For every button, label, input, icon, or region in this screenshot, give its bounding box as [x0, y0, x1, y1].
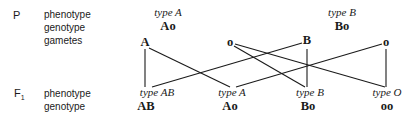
f1-label-letter: F: [14, 87, 21, 99]
gamete-A: A: [140, 35, 149, 50]
offspring-Ao-phenotype: type A: [218, 86, 246, 98]
offspring-Ao-genotype: Ao: [222, 99, 237, 114]
offspring-AB-phenotype: type AB: [140, 86, 174, 98]
p-generation-label: P: [13, 9, 20, 21]
f1-row-label-phenotype: phenotype: [44, 88, 91, 99]
gamete-B: B: [303, 33, 311, 48]
gamete-o-parent2: o: [383, 35, 389, 50]
parent1-phenotype: type A: [154, 6, 182, 18]
gamete-o-parent1: o: [227, 35, 233, 50]
offspring-AB-genotype: AB: [137, 99, 154, 114]
row-label-phenotype: phenotype: [44, 9, 91, 20]
parent2-phenotype: type B: [328, 6, 356, 18]
row-label-gametes: gametes: [44, 35, 82, 46]
offspring-Bo-genotype: Bo: [301, 99, 316, 114]
offspring-oo-phenotype: type O: [372, 86, 401, 98]
parent1-genotype: Ao: [160, 19, 175, 34]
offspring-Bo-phenotype: type B: [296, 86, 324, 98]
row-label-genotype: genotype: [44, 22, 85, 33]
f1-row-label-genotype: genotype: [44, 101, 85, 112]
f1-generation-label: F1: [14, 87, 25, 101]
f1-label-subscript: 1: [21, 94, 25, 101]
offspring-oo-genotype: oo: [381, 99, 394, 114]
parent2-genotype: Bo: [335, 19, 350, 34]
